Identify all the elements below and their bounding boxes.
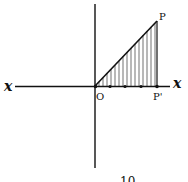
x-axis-label-right: x <box>172 75 182 91</box>
point-p-prime-label: P' <box>153 91 162 102</box>
caption-partial: 10 <box>120 175 135 182</box>
diagram: x x O P P' 10 <box>0 0 188 182</box>
point-p-label: P <box>159 11 166 22</box>
x-axis-label-left: x <box>3 78 13 94</box>
origin-label: O <box>96 91 104 102</box>
line-op <box>95 21 157 86</box>
